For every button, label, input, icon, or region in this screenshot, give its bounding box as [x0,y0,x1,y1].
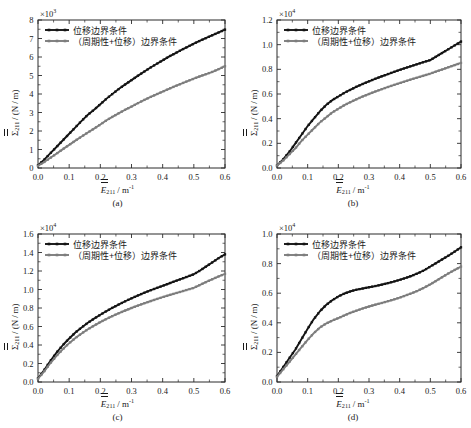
series-marker [301,337,303,339]
y-axis-label: Σ211 / (N / m) [10,304,20,350]
series-marker [390,281,392,283]
series-marker [53,148,55,150]
y-subscript: 211 [13,122,20,131]
series-marker [72,333,74,335]
series-marker [384,74,386,76]
series-marker [327,115,329,117]
series-marker [346,103,348,105]
series-line-periodic-displacement [38,274,225,379]
series-marker [377,89,379,91]
series-marker [460,246,462,248]
series-marker [127,308,129,310]
series-marker [374,285,376,287]
series-marker [166,57,168,59]
y-axis-label: Σ211 / (N / m) [10,90,20,136]
series-marker [127,81,129,83]
series-line-displacement [277,247,461,376]
series-marker [182,48,184,50]
series-marker [276,164,278,166]
series-marker [333,110,335,112]
y-unit: / (N / m) [249,90,259,122]
series-marker [114,114,116,116]
series-marker [400,82,402,84]
panel-caption: (b) [235,198,471,208]
x-unit: / m [351,185,365,195]
y-tick-label: 0.4 [262,114,273,124]
y-tick-label: 0.6 [262,288,273,298]
series-marker [365,287,367,289]
series-marker [327,322,329,324]
series-marker [82,325,84,327]
series-marker [419,76,421,78]
series-marker [419,289,421,291]
series-marker [98,124,100,126]
series-marker [276,376,278,378]
series-marker [336,317,338,319]
series-marker [166,283,168,285]
series-marker [195,77,197,79]
series-marker [169,55,171,57]
series-marker [69,132,71,134]
series-marker [450,65,452,67]
exponent-power: 3 [53,8,56,14]
series-marker [447,66,449,68]
x-axis-label: E211 / m-1 [235,397,471,409]
series-marker [298,349,300,351]
series-marker [108,96,110,98]
series-marker [419,62,421,64]
series-marker [330,100,332,102]
series-marker [137,294,139,296]
series-marker [428,266,430,268]
series-marker [130,105,132,107]
series-marker [358,308,360,310]
x-e-symbol: E [336,399,342,409]
series-marker [114,90,116,92]
series-marker [419,271,421,273]
series-marker [172,293,174,295]
x-tick-label: 0.2 [95,172,106,182]
series-marker [153,94,155,96]
series-marker [121,110,123,112]
series-marker [333,298,335,300]
x-tick-label: 0.4 [394,172,405,182]
series-marker [460,62,462,64]
series-marker [431,282,433,284]
series-marker [82,134,84,136]
series-marker [214,277,216,279]
series-marker [355,310,357,312]
series-marker [333,98,335,100]
x-unit-exponent: -1 [129,397,134,404]
series-marker [320,120,322,122]
series-marker [304,331,306,333]
series-marker [403,295,405,297]
x-tick-label: 0.5 [425,386,436,396]
series-marker [117,112,119,114]
series-marker [330,112,332,114]
series-marker [108,317,110,319]
series-marker [95,107,97,109]
series-marker [69,336,71,338]
y-tick-label: 0.6 [262,89,273,99]
series-marker [301,132,303,134]
series-marker [409,65,411,67]
series-marker [282,368,284,370]
exponent-mantissa: ×10 [40,223,53,233]
y-tick-label: 0.2 [262,347,273,357]
series-marker [422,61,424,63]
series-marker [381,88,383,90]
x-tick-label: 0.0 [272,172,283,182]
series-marker [374,304,376,306]
series-marker [201,39,203,41]
series-marker [447,272,449,274]
series-marker [198,40,200,42]
series-marker [59,350,61,352]
series-marker [323,323,325,325]
series-marker [390,299,392,301]
series-marker [124,300,126,302]
exponent-power: 4 [292,8,295,14]
series-marker [169,294,171,296]
y-tick-label: 5 [29,71,33,81]
series-marker [346,90,348,92]
series-marker [43,161,45,163]
series-marker [403,81,405,83]
